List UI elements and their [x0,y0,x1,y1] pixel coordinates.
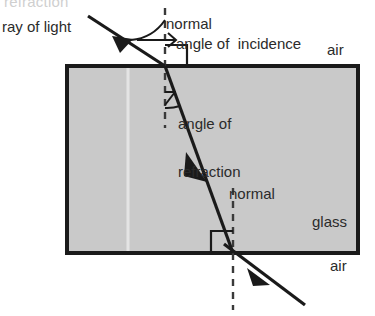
label-angle-of-incidence: angle of incidence [176,36,301,52]
label-angle-of-refraction-line1: angle of [178,116,241,132]
label-air-top: air [327,42,344,58]
label-normal-top: normal [166,16,212,32]
label-normal-bottom: normal [229,186,275,202]
label-glass: glass [312,214,347,230]
label-air-bottom: air [330,258,347,274]
label-ray-of-light: ray of light [2,19,71,35]
label-angle-of-refraction-line2: refraction [178,164,241,180]
angle-of-incidence-arc [131,20,165,40]
refraction-diagram: refraction ray of light no [0,0,375,316]
